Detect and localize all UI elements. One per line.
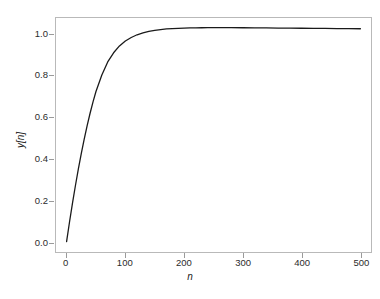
x-tick-label: 300 <box>235 258 251 268</box>
chart-figure: 0.00.20.40.60.81.0 0100200300400500 y[n]… <box>0 0 380 299</box>
x-axis-label: n <box>0 272 380 282</box>
y-tick-mark <box>49 34 54 35</box>
x-tick-mark <box>184 253 185 258</box>
x-tick-mark <box>243 253 244 258</box>
x-tick-label: 200 <box>176 258 192 268</box>
x-tick-mark <box>125 253 126 258</box>
x-tick-label: 400 <box>294 258 310 268</box>
y-tick-mark <box>49 243 54 244</box>
y-axis-label: y[n] <box>16 132 26 148</box>
x-tick-mark <box>302 253 303 258</box>
x-tick-label: 0 <box>63 258 68 268</box>
y-tick-mark <box>49 75 54 76</box>
y-tick-mark <box>49 201 54 202</box>
x-axis-ticks: 0100200300400500 <box>0 0 380 299</box>
x-tick-mark <box>361 253 362 258</box>
y-tick-mark <box>49 117 54 118</box>
x-tick-mark <box>66 253 67 258</box>
x-tick-label: 500 <box>353 258 369 268</box>
y-tick-mark <box>49 159 54 160</box>
x-tick-label: 100 <box>117 258 133 268</box>
